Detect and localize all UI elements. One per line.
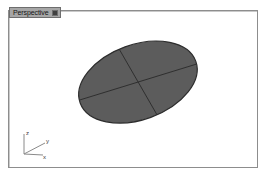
x-axis-line (24, 154, 43, 155)
perspective-viewport[interactable]: z y x (8, 10, 258, 168)
viewport-title-tab[interactable]: Perspective (9, 7, 61, 18)
viewport-menu-marker-icon[interactable] (52, 10, 58, 16)
x-axis-label: x (43, 154, 46, 160)
viewport-title-label: Perspective (13, 9, 48, 17)
y-axis-label: y (46, 138, 49, 144)
z-axis-label: z (26, 130, 29, 136)
y-axis-line (24, 143, 45, 154)
application-window: z y x Perspective (0, 0, 266, 177)
axis-gizmo: z y x (17, 128, 55, 160)
